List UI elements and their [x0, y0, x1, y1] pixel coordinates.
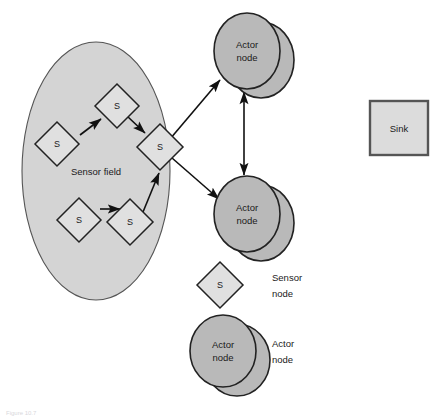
legend-actor-text-line2: node [272, 354, 293, 365]
sensor-field-region: Sensor field [22, 42, 170, 300]
actor-node-a1: Actornode [214, 13, 294, 98]
actor-node-a1-label-line1: Actor [236, 39, 258, 50]
legend-sensor: SSensornode [197, 262, 302, 308]
legend: SSensornodeActornodeActornode [190, 262, 302, 396]
sensor-node-s2-label: S [114, 101, 120, 111]
legend-actor: ActornodeActornode [190, 315, 294, 396]
legend-sensor-text-line1: Sensor [272, 272, 302, 283]
actor-node-group: ActornodeActornode [214, 13, 294, 261]
sensor-node-s4-label: S [76, 215, 82, 225]
sensor-field-label: Sensor field [71, 166, 121, 177]
actor-node-a2-label-line2: node [236, 215, 257, 226]
sink-node: Sink [370, 101, 428, 155]
legend-actor-actor-glyph-label-line2: node [212, 352, 233, 363]
sink-label: Sink [390, 123, 409, 134]
legend-actor-actor-glyph-label-line1: Actor [212, 339, 234, 350]
actor-node-a2: Actornode [214, 176, 294, 261]
sensor-node-s5-label: S [127, 217, 133, 227]
legend-actor-text-line1: Actor [272, 338, 294, 349]
sensor-node-s3-label: S [157, 142, 163, 152]
actor-node-a1-label-line2: node [236, 52, 257, 63]
network-diagram-svg: Sensor field SSSSS ActornodeActornode Si… [0, 0, 448, 418]
link-s3-a2 [172, 158, 219, 199]
diagram-canvas: Sensor field SSSSS ActornodeActornode Si… [0, 0, 448, 418]
link-s3-a1 [170, 80, 220, 139]
figure-caption: Figure 10.7 [6, 410, 37, 416]
legend-sensor-text-line2: node [272, 288, 293, 299]
legend-sensor-sensor-glyph: S [197, 262, 243, 308]
legend-sensor-sensor-glyph-label: S [217, 280, 223, 290]
actor-node-a2-label-line1: Actor [236, 202, 258, 213]
legend-actor-actor-glyph: Actornode [190, 315, 270, 396]
sensor-node-s1-label: S [54, 139, 60, 149]
